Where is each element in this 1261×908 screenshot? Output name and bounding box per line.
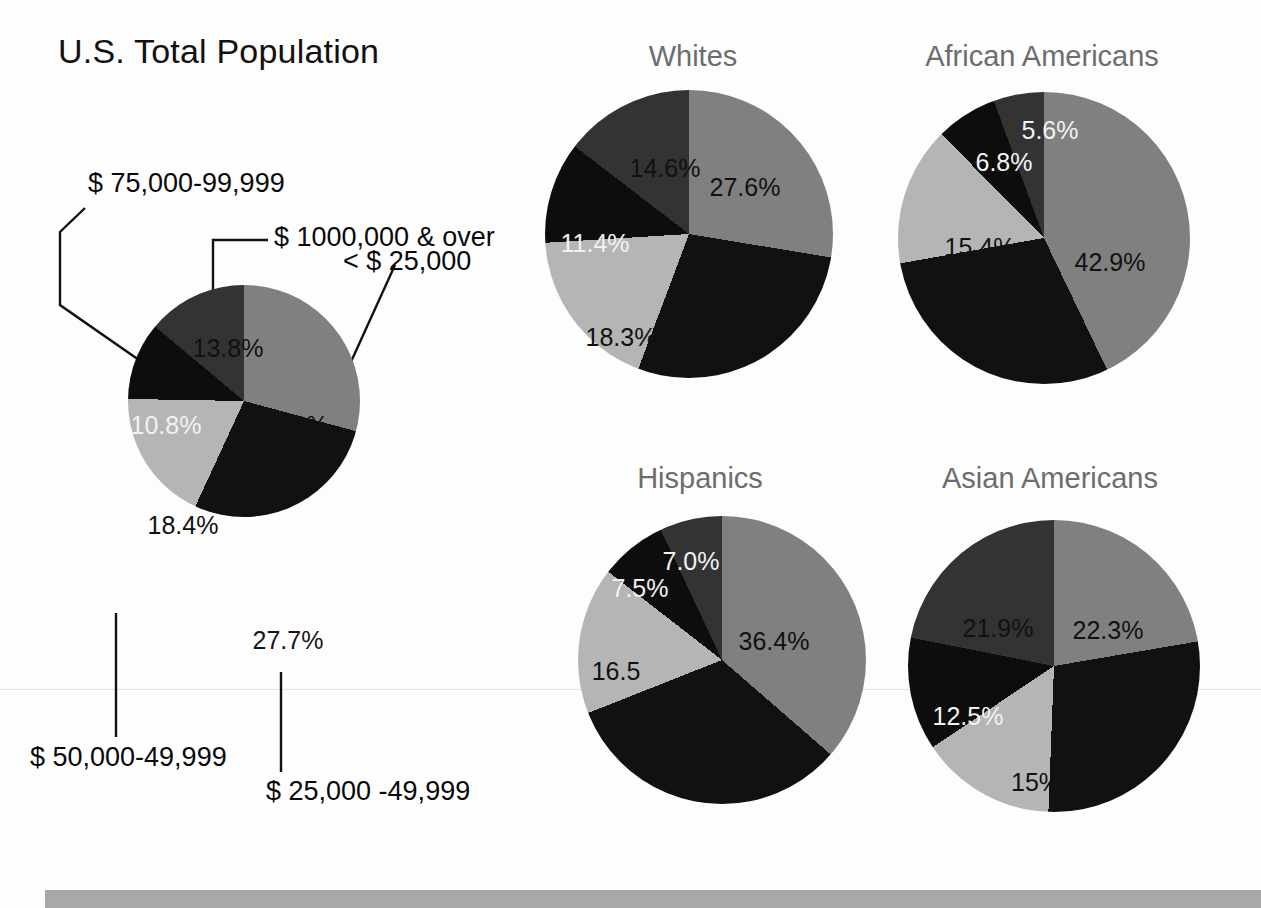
callout-50k: $ 50,000-49,999 <box>30 742 227 773</box>
pie-african-americans: 42.9% 15.4% 6.8% 5.6% <box>898 92 1190 384</box>
slice-label-asian-22: 22.3% <box>1073 616 1144 645</box>
pie-hispanics: 36.4% 16.5 7.5% 7.0% <box>578 516 866 804</box>
callout-25k: < $ 25,000 <box>343 246 471 277</box>
pie-us-total: 29.2% 27.7% 18.4% 10.8% 13.8% <box>128 285 360 517</box>
title-whites: Whites <box>603 40 783 73</box>
pie-whites: 27.6% 18.3% 11.4% 14.6% <box>545 90 833 378</box>
title-african-americans: African Americans <box>882 40 1202 73</box>
slice-label-aa-5: 5.6% <box>1022 116 1079 145</box>
slice-label-hisp-16: 16.5 <box>592 657 641 686</box>
title-hispanics: Hispanics <box>600 462 800 495</box>
slice-label-hisp-75: 7.5% <box>612 574 669 603</box>
slice-label-27: 27.7% <box>253 626 324 655</box>
slice-label-whites-18: 18.3% <box>586 323 657 352</box>
slice-label-aa-42: 42.9% <box>1075 248 1146 277</box>
slice-label-hisp-36: 36.4% <box>739 627 810 656</box>
callout-25-49k: $ 25,000 -49,999 <box>266 776 470 807</box>
slice-label-whites-27: 27.6% <box>710 173 781 202</box>
slice-label-asian-12: 12.5% <box>933 702 1004 731</box>
slice-label-whites-11: 11.4% <box>560 229 629 258</box>
footer-bar <box>45 890 1261 908</box>
pie-asian-americans: 22.3% 21.9% 12.5% 15% <box>908 520 1200 812</box>
slice-label-13: 13.8% <box>193 334 264 363</box>
slice-label-asian-15: 15% <box>1011 768 1061 797</box>
page-title: U.S. Total Population <box>58 32 379 71</box>
slice-label-29: 29.2% <box>258 411 329 440</box>
title-asian-americans: Asian Americans <box>900 462 1200 495</box>
slice-label-whites-14: 14.6% <box>630 154 701 183</box>
slice-label-18: 18.4% <box>148 511 219 540</box>
slice-label-10: 10.8% <box>131 411 202 440</box>
slice-label-hisp-70: 7.0% <box>663 547 720 576</box>
slice-label-aa-6: 6.8% <box>976 148 1033 177</box>
slice-label-asian-21: 21.9% <box>963 614 1034 643</box>
callout-75k: $ 75,000-99,999 <box>88 168 285 199</box>
slice-label-aa-15: 15.4% <box>945 233 1016 262</box>
chart-canvas: U.S. Total Population $ 75,000-99,999 $ … <box>0 0 1261 908</box>
